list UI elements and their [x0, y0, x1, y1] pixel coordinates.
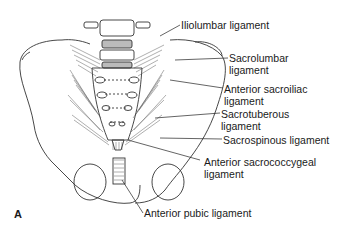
panel-label: A	[14, 208, 22, 220]
label-line: ligament	[204, 168, 316, 180]
label-line: Sacrospinous ligament	[223, 134, 329, 146]
label-line: ligament	[221, 120, 289, 132]
leader-anterior-pubic	[122, 180, 143, 213]
label-line: ligament	[229, 64, 289, 76]
label-sacrospinous-ligament: Sacrospinous ligament	[223, 134, 329, 146]
label-iliolumbar-ligament: Iliolumbar ligament	[181, 19, 269, 31]
leader-anterior-sacroiliac	[170, 80, 223, 88]
label-line: ligament	[224, 95, 307, 107]
label-anterior-pubic-ligament: Anterior pubic ligament	[144, 207, 251, 219]
label-sacrotuberous-ligament: Sacrotuberous ligament	[221, 108, 289, 132]
leader-iliolumbar	[160, 25, 180, 36]
leader-anterior-sacrococcygeal	[128, 140, 200, 160]
label-anterior-sacroiliac-ligament: Anterior sacroiliac ligament	[224, 83, 307, 107]
label-line: Anterior sacroiliac	[224, 83, 307, 95]
label-line: Sacrotuberous	[221, 108, 289, 120]
label-line: Anterior pubic ligament	[144, 207, 251, 219]
leader-sacrospinous	[160, 138, 222, 139]
leader-sacrolumbar	[175, 58, 228, 60]
pelvis-illustration	[0, 0, 341, 239]
label-anterior-sacrococcygeal-ligament: Anterior sacrococcygeal ligament	[204, 156, 316, 180]
leader-sacrotuberous	[155, 113, 220, 118]
label-line: Sacrolumbar	[229, 52, 289, 64]
label-line: Iliolumbar ligament	[181, 19, 269, 31]
label-line: Anterior sacrococcygeal	[204, 156, 316, 168]
label-sacrolumbar-ligament: Sacrolumbar ligament	[229, 52, 289, 76]
